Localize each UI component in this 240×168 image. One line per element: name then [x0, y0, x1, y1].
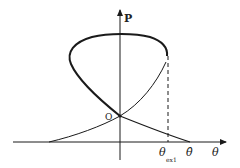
- increasing-curve: [49, 62, 166, 142]
- decreasing-curve: [120, 116, 190, 142]
- theta-ext-label: θ: [159, 146, 166, 159]
- loop-curve: [70, 34, 168, 116]
- phase-diagram: P O θ ex1 θ̂ θ: [0, 0, 240, 168]
- theta-axis-label: θ: [212, 146, 219, 159]
- origin-label: O: [105, 112, 112, 122]
- origin-point: [118, 114, 121, 117]
- theta-hat-label: θ̂: [186, 146, 193, 159]
- p-axis-label: P: [124, 12, 132, 25]
- theta-ext-subscript: ex1: [166, 156, 177, 163]
